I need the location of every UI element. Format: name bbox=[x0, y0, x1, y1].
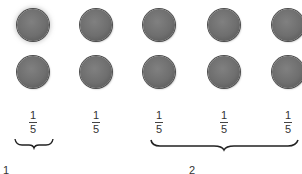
brace-group-1 bbox=[15, 139, 53, 148]
group-label-1: 1 bbox=[3, 164, 9, 174]
brace-layer bbox=[0, 0, 302, 174]
group-label-2: 2 bbox=[189, 164, 195, 174]
brace-group-2 bbox=[151, 140, 298, 150]
